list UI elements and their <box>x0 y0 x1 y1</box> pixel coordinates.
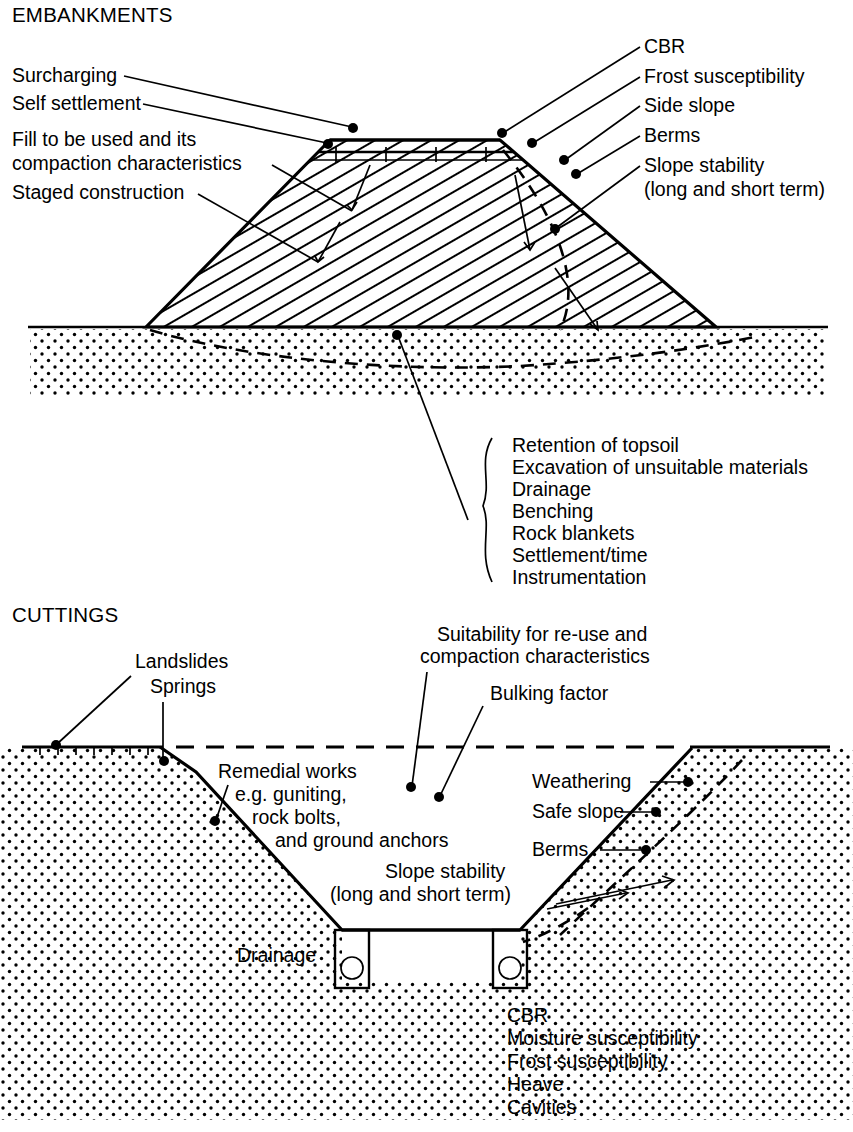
label-berms: Berms <box>644 124 701 146</box>
leader-dot-safe-slope <box>651 807 661 817</box>
foundation-list-item-4: Rock blankets <box>512 522 635 544</box>
label-fill-line-1: Fill to be used and its <box>12 128 197 150</box>
foundation-list-item-1: Excavation of unsuitable materials <box>512 456 808 478</box>
label-side-slope: Side slope <box>644 94 735 116</box>
leader-dot-springs <box>159 756 169 766</box>
label-cutting-slope-stability-1: Slope stability <box>385 860 506 882</box>
label-fill-line-2: compaction characteristics <box>12 152 242 174</box>
formation-list-item-3: Heave <box>507 1073 563 1095</box>
foundation-list-item-6: Instrumentation <box>512 566 646 588</box>
leader-dot-frost <box>527 138 537 148</box>
leader-dot-surcharging <box>348 123 358 133</box>
leader-dot-side-slope <box>559 155 569 165</box>
foundation-list-item-5: Settlement/time <box>512 544 647 566</box>
label-frost-susceptibility: Frost susceptibility <box>644 65 805 87</box>
formation-list-item-4: Cavities <box>507 1096 577 1118</box>
label-cbr: CBR <box>644 35 685 57</box>
leader-dot-self-settlement <box>323 139 333 149</box>
embankment-natural-ground <box>30 329 825 395</box>
label-remedial-line-3: rock bolts, <box>252 806 341 828</box>
label-berms-cutting: Berms <box>532 838 589 860</box>
embankments-section-title: EMBANKMENTS <box>12 3 173 26</box>
label-remedial-line-4: and ground anchors <box>275 829 449 851</box>
foundation-list-item-3: Benching <box>512 500 593 522</box>
leader-dot-weathering <box>683 777 693 787</box>
label-suitability-line-1: Suitability for re-use and <box>437 623 647 645</box>
formation-list-item-1: Moisture susceptibility <box>507 1027 698 1049</box>
label-landslides: Landslides <box>135 650 228 672</box>
formation-list-item-2: Frost susceptibility <box>507 1050 668 1072</box>
label-springs: Springs <box>150 675 216 697</box>
leader-dot-suitability <box>406 782 416 792</box>
label-slope-stability-line-1: Slope stability <box>644 154 765 176</box>
label-safe-slope: Safe slope <box>532 800 624 822</box>
label-bulking-factor: Bulking factor <box>490 682 609 704</box>
formation-list-item-0: CBR <box>507 1004 548 1026</box>
label-staged-construction: Staged construction <box>12 181 184 203</box>
label-drainage: Drainage <box>237 944 316 966</box>
label-self-settlement: Self settlement <box>12 92 142 114</box>
leader-dot-bulking-factor <box>434 792 444 802</box>
foundation-list-item-0: Retention of topsoil <box>512 434 679 456</box>
leader-dot-berms <box>571 169 581 179</box>
label-remedial-line-1: Remedial works <box>218 760 357 782</box>
leader-dot-berms-cutting <box>641 845 651 855</box>
earthworks-diagram: EMBANKMENTS <box>0 0 853 1132</box>
cuttings-section-title: CUTTINGS <box>12 603 118 626</box>
leader-dot-cbr <box>497 128 507 138</box>
label-weathering: Weathering <box>532 770 631 792</box>
label-cutting-slope-stability-2: (long and short term) <box>330 883 511 905</box>
label-slope-stability-line-2: (long and short term) <box>644 178 825 200</box>
leader-dot-foundation-list <box>392 330 402 340</box>
leader-dot-remedial-works <box>210 816 220 826</box>
leader-dot-slope-stability <box>550 224 560 234</box>
label-remedial-line-2: e.g. guniting, <box>235 783 347 805</box>
leader-dot-landslides <box>51 740 61 750</box>
foundation-list-item-2: Drainage <box>512 478 591 500</box>
label-suitability-line-2: compaction characteristics <box>420 645 650 667</box>
label-surcharging: Surcharging <box>12 64 117 86</box>
